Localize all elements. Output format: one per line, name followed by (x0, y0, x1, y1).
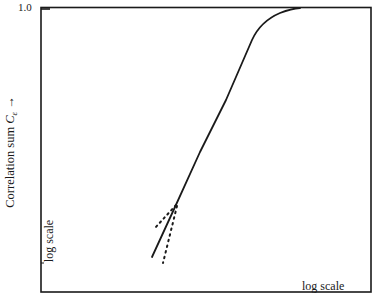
ytick-label-1-0: 1.0 (18, 1, 32, 13)
y-scale-note: log scale (43, 220, 56, 262)
chart-plot-area (0, 0, 373, 307)
arrow-up-icon: → (3, 96, 17, 112)
y-axis-label-subscript: ε (9, 112, 19, 116)
x-scale-note: log scale (302, 280, 344, 293)
plot-frame (41, 8, 371, 293)
y-axis-label: Correlation sum Cε → (3, 96, 21, 208)
lower-dotted-deviation (163, 206, 177, 263)
y-axis-label-symbol: C (3, 115, 17, 123)
y-axis-label-text: Correlation sum (3, 124, 17, 208)
